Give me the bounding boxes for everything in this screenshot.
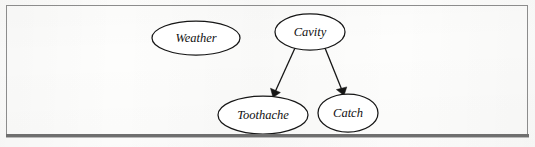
edge-cavity-to-catch bbox=[325, 48, 347, 96]
node-label-catch: Catch bbox=[333, 106, 363, 120]
node-catch[interactable]: Catch bbox=[318, 94, 378, 132]
bleed-through-text bbox=[10, 139, 529, 147]
bottom-rule-shadow bbox=[6, 137, 529, 138]
node-label-toothache: Toothache bbox=[237, 108, 289, 122]
node-weather[interactable]: Weather bbox=[152, 21, 240, 55]
edge-line bbox=[325, 48, 342, 89]
bayesian-network-graph: Weather Cavity Toothache Catch bbox=[0, 0, 535, 147]
edge-cavity-to-toothache bbox=[271, 48, 296, 98]
node-toothache[interactable]: Toothache bbox=[218, 96, 308, 134]
node-label-weather: Weather bbox=[175, 31, 216, 45]
figure-page: Weather Cavity Toothache Catch bbox=[0, 0, 535, 147]
node-label-cavity: Cavity bbox=[294, 25, 327, 39]
node-cavity[interactable]: Cavity bbox=[275, 14, 345, 50]
edge-line bbox=[276, 48, 296, 91]
